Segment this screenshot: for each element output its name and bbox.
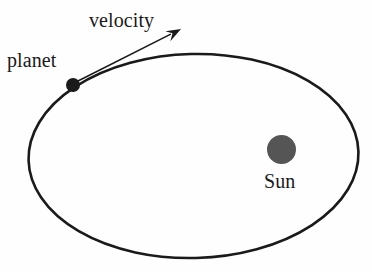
- orbit-diagram-canvas: [0, 0, 372, 272]
- sun-label: Sun: [264, 171, 295, 191]
- orbit-diagram: velocity planet Sun: [0, 0, 372, 272]
- planet-dot-icon: [66, 78, 80, 92]
- velocity-label: velocity: [89, 10, 154, 30]
- planet-label: planet: [7, 50, 56, 70]
- sun-disc-icon: [267, 135, 296, 164]
